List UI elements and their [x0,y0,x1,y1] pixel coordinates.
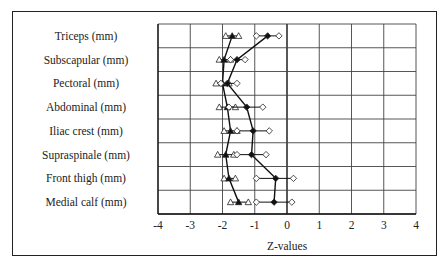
diamond-high-marker [242,56,248,62]
x-tick-label: 1 [316,219,322,231]
diamond-high-marker [260,104,266,110]
diamond-high-marker [263,151,269,157]
x-tick-label: 3 [381,219,387,231]
x-tick-label: 4 [413,219,419,231]
category-label: Triceps (mm) [55,30,118,43]
x-tick-label: -1 [250,219,260,231]
chart: -4-3-2-101234Triceps (mm)Subscapular (mm… [0,0,447,270]
category-label: Pectoral (mm) [53,77,119,90]
diamond-high-marker [289,199,295,205]
diamond-low-marker [253,199,259,205]
diamond-high-marker [276,33,282,39]
x-tick-label: 0 [284,219,290,231]
category-label: Front thigh (mm) [46,172,126,185]
diamond-low-marker [253,175,259,181]
diamond-mean-marker [250,128,256,134]
category-label: Iliac crest (mm) [49,125,123,138]
category-label: Subscapular (mm) [44,54,129,67]
diamond-low-marker [253,33,259,39]
category-label: Medial calf (mm) [45,196,126,209]
category-label: Supraspinale (mm) [42,149,130,162]
diamond-high-marker [266,128,272,134]
diamond-high-marker [234,80,240,86]
x-tick-label: 2 [349,219,355,231]
x-tick-label: -2 [218,219,228,231]
category-label: Abdominal (mm) [46,101,126,114]
x-axis-label: Z-values [267,240,308,252]
diamond-high-marker [290,175,296,181]
x-tick-label: -4 [153,219,163,231]
x-tick-label: -3 [185,219,195,231]
diamond-mean-marker [271,199,277,205]
